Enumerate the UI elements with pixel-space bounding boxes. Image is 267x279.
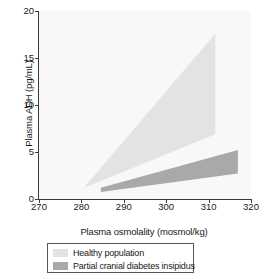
y-tick-label: 20 (8, 6, 34, 16)
x-tick-label: 270 (19, 202, 59, 212)
legend-item-healthy: Healthy population (53, 247, 193, 259)
x-axis-line (38, 199, 251, 200)
legend-label-partial-cdi: Partial cranial diabetes insipidus (73, 261, 195, 271)
x-tick-label-wrap: 310 (189, 202, 229, 212)
y-tick-mark (35, 58, 39, 59)
x-tick-label-wrap: 300 (146, 202, 186, 212)
x-tick-label-wrap: 270 (19, 202, 59, 212)
legend-swatch-healthy (53, 249, 68, 257)
x-tick-label: 300 (146, 202, 186, 212)
legend-item-partial-cdi: Partial cranial diabetes insipidus (53, 260, 193, 272)
plot-svg (39, 11, 251, 199)
x-tick-label: 280 (61, 202, 101, 212)
x-axis-title: Plasma osmolality (mosmol/kg) (38, 226, 250, 237)
x-tick-label: 310 (189, 202, 229, 212)
y-axis-title: Plasma ADH (pg/mL) (23, 24, 34, 184)
x-tick-label: 320 (231, 202, 267, 212)
x-tick-label-wrap: 320 (231, 202, 267, 212)
y-tick-mark (35, 152, 39, 153)
x-tick-label-wrap: 290 (104, 202, 144, 212)
plot-area (39, 11, 251, 199)
legend-swatch-partial-cdi (53, 262, 68, 270)
legend: Healthy population Partial cranial diabe… (47, 243, 194, 273)
x-tick-label-wrap: 280 (61, 202, 101, 212)
y-tick-mark (35, 11, 39, 12)
y-tick-label-wrap: 0 (4, 194, 34, 195)
x-tick-label: 290 (104, 202, 144, 212)
y-tick-label-wrap: 20 (4, 6, 34, 7)
chart-container: 05101520 270280290300310320 Plasma ADH (… (0, 0, 267, 279)
legend-label-healthy: Healthy population (73, 248, 144, 258)
y-tick-mark (35, 105, 39, 106)
